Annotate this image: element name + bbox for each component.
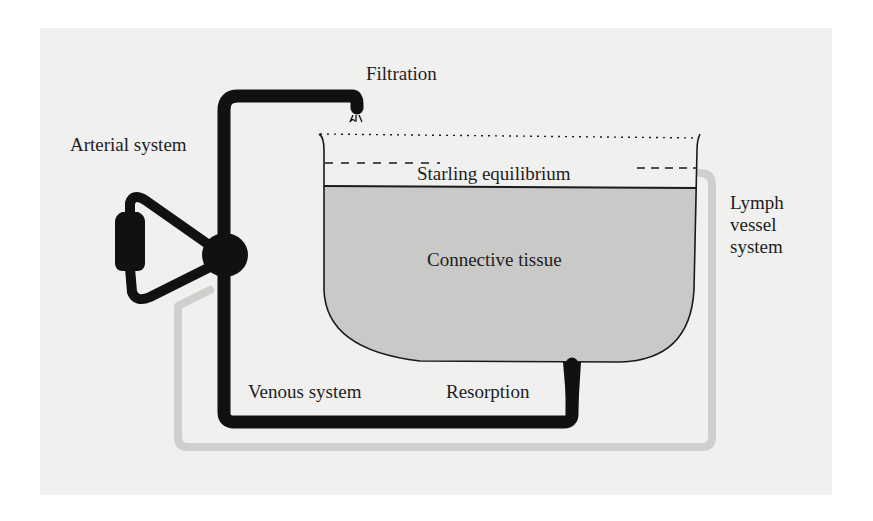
lymph-label-line1: Lymph — [730, 192, 810, 214]
resorption-label: Resorption — [446, 381, 529, 403]
arterial-system-label: Arterial system — [70, 134, 187, 156]
lymph-label-line2: vessel — [730, 214, 810, 236]
junction-node-icon — [202, 233, 248, 277]
filtration-drip-icon — [350, 115, 362, 122]
venous-system-label: Venous system — [248, 381, 361, 403]
connective-tissue-label: Connective tissue — [427, 249, 562, 271]
starling-equilibrium-label: Starling equilibrium — [417, 163, 571, 185]
lymph-vessel-system-label: Lymph vessel system — [730, 192, 810, 258]
filtration-label: Filtration — [366, 63, 437, 85]
heart-pump-icon — [115, 212, 145, 271]
lymph-label-line3: system — [730, 236, 810, 258]
